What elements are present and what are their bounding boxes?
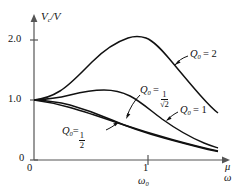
x-axis-label: μ ω <box>224 161 231 183</box>
curve-label-q0-2: Q0 = 2 <box>190 48 217 60</box>
q-symbol-q0-half: Q <box>62 125 70 136</box>
y-tick-label-0: 0 <box>19 152 24 163</box>
fraction-denominator-invsqrt2: √2 <box>159 100 170 109</box>
q-symbol-q0-1: Q <box>180 104 188 115</box>
q-subscript-q0-1: 0 <box>188 109 191 116</box>
leader-arrow-q0-2 <box>175 60 181 65</box>
q-symbol-q0-invsqrt2: Q <box>140 84 148 95</box>
y-axis-label: Vc/V <box>41 10 61 23</box>
curve-label-q0-inv-sqrt2: Q0 =1√2 <box>140 84 170 109</box>
fraction-denominator-half: 2 <box>79 141 85 150</box>
y-axis-arrow <box>31 14 38 22</box>
q-subscript-q0-invsqrt2: 0 <box>148 89 151 96</box>
q-value-q0-1: = 1 <box>193 104 207 115</box>
plot-svg <box>0 0 247 194</box>
figure-canvas: Vc/V 2.0 1.0 0 0 1 ω0 μ ω Q0 = 2 Q0 =1√2… <box>0 0 247 194</box>
x-tick-sublabel-omega0: ω0 <box>138 175 149 187</box>
x-origin-label: 0 <box>27 162 32 173</box>
x-axis-label-denominator: ω <box>224 172 231 183</box>
y-axis-label-main: V <box>41 10 48 22</box>
curve-label-q0-1: Q0 = 1 <box>180 104 207 116</box>
q-symbol-q0-2: Q <box>190 48 198 59</box>
omega-subscript: 0 <box>145 180 148 187</box>
curve-label-q0-half: Q0=12 <box>62 125 85 150</box>
q-value-q0-2: = 2 <box>203 48 217 59</box>
x-tick-label-1: 1 <box>143 162 148 173</box>
fraction-half: 12 <box>79 131 85 150</box>
q-subscript-q0-2: 0 <box>198 53 201 60</box>
y-tick-label-2: 2.0 <box>8 33 21 44</box>
y-axis-label-rest: /V <box>51 10 61 22</box>
fraction-inv-sqrt2: 1√2 <box>159 90 170 109</box>
leader-arrow-q0-inv-sqrt2 <box>126 113 130 119</box>
y-tick-label-1: 1.0 <box>8 93 21 104</box>
x-axis-label-numerator: μ <box>225 161 230 172</box>
